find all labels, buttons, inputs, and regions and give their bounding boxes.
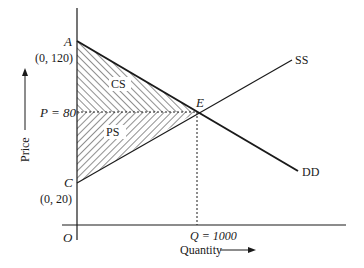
q-symbol: Q = 1000	[190, 229, 237, 243]
point-c-label: C	[64, 175, 73, 190]
supply-curve-label: SS	[295, 53, 308, 67]
origin-label: O	[63, 230, 73, 245]
point-a-coord: (0, 120)	[35, 51, 73, 65]
price-arrow-head	[22, 68, 28, 76]
point-e-label: E	[195, 95, 204, 110]
demand-curve-label: DD	[302, 165, 320, 179]
producer-surplus-label: PS	[106, 125, 119, 139]
point-c-coord: (0, 20)	[40, 192, 72, 206]
equilibrium-quantity-label: Q = 1000	[190, 229, 237, 243]
x-axis-label: Quantity	[180, 243, 222, 257]
y-axis-label: Price	[18, 137, 32, 162]
consumer-surplus-label: CS	[111, 77, 126, 91]
quantity-arrow-head	[248, 247, 256, 253]
point-a-label: A	[63, 34, 72, 49]
surplus-diagram: A (0, 120) P = 80 C (0, 20) O E SS DD CS…	[0, 0, 364, 268]
p-symbol: P = 80	[39, 105, 76, 120]
equilibrium-price-label: P = 80	[39, 105, 76, 120]
